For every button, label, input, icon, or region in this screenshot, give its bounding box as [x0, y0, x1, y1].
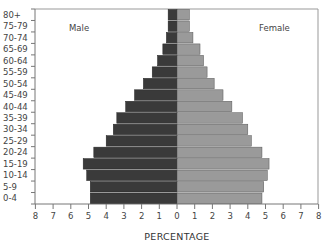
- bars: [83, 10, 269, 204]
- male-bar: [168, 21, 177, 31]
- y-tick-label: 15-19: [3, 159, 28, 169]
- male-bar: [126, 101, 177, 111]
- y-tick-label: 30-34: [3, 124, 28, 134]
- female-bar: [177, 78, 214, 88]
- y-tick-label: 70-74: [3, 33, 28, 43]
- y-tick-label: 10-14: [3, 170, 28, 180]
- female-bar: [177, 124, 248, 134]
- male-label: Male: [69, 23, 89, 33]
- y-tick-label: 75-79: [3, 21, 28, 31]
- male-bar: [166, 32, 177, 42]
- male-bar: [90, 182, 177, 192]
- x-tick-label: 1: [157, 211, 162, 221]
- y-tick-label: 80+: [3, 10, 21, 20]
- y-tick-label: 5-9: [3, 182, 17, 192]
- x-tick-label: 0: [174, 211, 179, 221]
- male-bar: [87, 170, 177, 180]
- y-axis: 0-45-910-1415-1920-2425-2930-3435-3940-4…: [3, 9, 35, 204]
- x-tick-label: 3: [121, 211, 126, 221]
- female-bar: [177, 67, 207, 77]
- female-bar: [177, 90, 223, 100]
- female-bar: [177, 21, 189, 31]
- x-tick-label: 5: [86, 211, 91, 221]
- x-axis-title: PERCENTAGE: [144, 231, 209, 242]
- x-tick-label: 2: [139, 211, 144, 221]
- female-bar: [177, 170, 267, 180]
- male-bar: [135, 90, 177, 100]
- female-bar: [177, 10, 189, 20]
- male-bar: [83, 159, 177, 169]
- y-tick-label: 65-69: [3, 44, 28, 54]
- female-bar: [177, 136, 251, 146]
- x-tick-label: 5: [263, 211, 268, 221]
- x-tick-label: 4: [245, 211, 250, 221]
- female-bar: [177, 32, 193, 42]
- male-bar: [106, 136, 177, 146]
- x-tick-label: 8: [33, 211, 38, 221]
- y-tick-label: 40-44: [3, 102, 28, 112]
- x-tick-label: 6: [280, 211, 285, 221]
- y-tick-label: 0-4: [3, 193, 17, 203]
- y-tick-label: 55-59: [3, 67, 28, 77]
- x-tick-label: 8: [316, 211, 321, 221]
- female-bar: [177, 193, 262, 203]
- x-tick-label: 6: [68, 211, 73, 221]
- x-axis: 87654321012345678: [33, 204, 322, 221]
- population-pyramid-chart: 0-45-910-1415-1920-2425-2930-3435-3940-4…: [0, 0, 322, 250]
- male-bar: [143, 78, 177, 88]
- female-bar: [177, 44, 200, 54]
- y-tick-label: 25-29: [3, 136, 28, 146]
- female-bar: [177, 182, 264, 192]
- male-bar: [90, 193, 177, 203]
- male-bar: [152, 67, 177, 77]
- y-tick-label: 35-39: [3, 113, 28, 123]
- female-bar: [177, 101, 232, 111]
- male-bar: [163, 44, 177, 54]
- male-bar: [158, 55, 177, 65]
- y-tick-label: 20-24: [3, 147, 28, 157]
- x-tick-label: 3: [227, 211, 232, 221]
- female-bar: [177, 55, 204, 65]
- male-bar: [94, 147, 177, 157]
- y-tick-label: 50-54: [3, 79, 28, 89]
- x-tick-label: 7: [50, 211, 55, 221]
- female-bar: [177, 147, 262, 157]
- y-tick-label: 60-64: [3, 56, 28, 66]
- y-tick-label: 45-49: [3, 90, 28, 100]
- female-bar: [177, 159, 269, 169]
- male-bar: [168, 10, 177, 20]
- female-label: Female: [259, 23, 290, 33]
- male-bar: [113, 124, 177, 134]
- x-tick-label: 2: [210, 211, 215, 221]
- x-tick-label: 7: [298, 211, 303, 221]
- x-tick-label: 4: [103, 211, 108, 221]
- x-tick-label: 1: [192, 211, 197, 221]
- male-bar: [117, 113, 177, 123]
- female-bar: [177, 113, 242, 123]
